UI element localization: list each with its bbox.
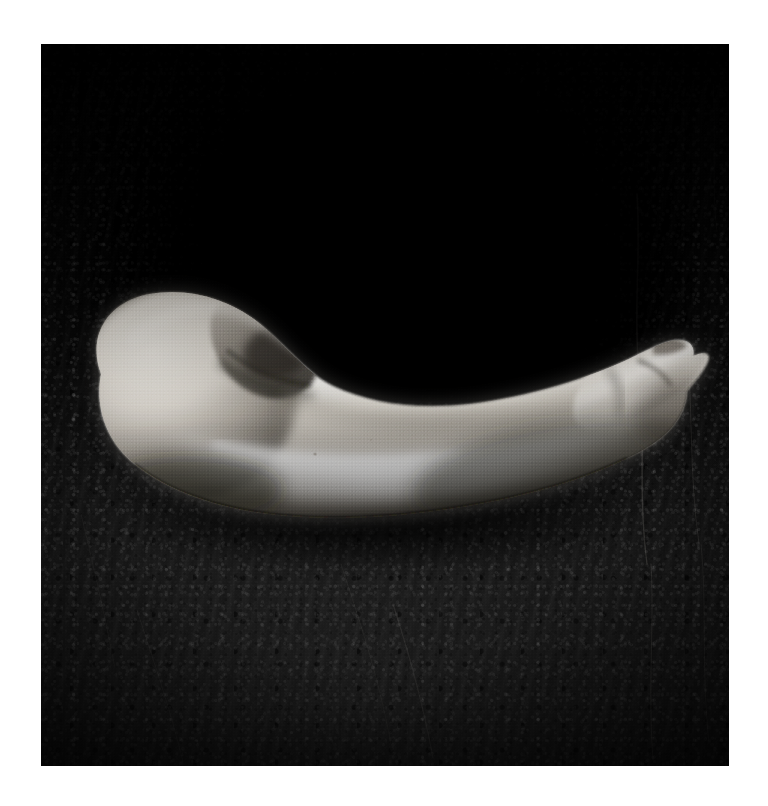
photographic-plate <box>41 44 729 766</box>
stone-hairline-cracks <box>41 44 729 766</box>
photograph-page <box>0 0 768 806</box>
caption-area <box>41 770 729 800</box>
